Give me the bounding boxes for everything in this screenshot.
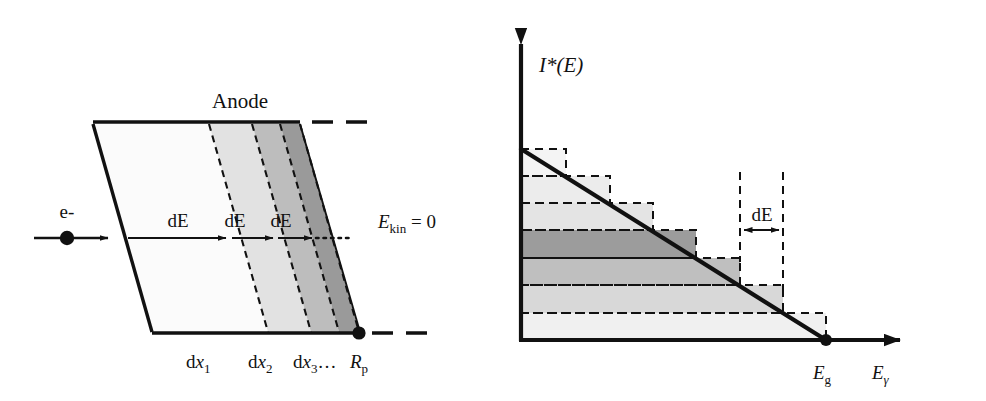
figure-container: Anode e- dE dE dE Ekin = 0 dx1 dx2 d [0,0,986,401]
anode-label: Anode [212,89,268,113]
cutoff-point-dot [820,334,832,346]
de-interval-label: dE [751,204,772,225]
kinetic-energy-label: Ekin = 0 [377,211,436,236]
cutoff-label: Eg [812,362,832,387]
depth-label-2-base: d [248,351,258,372]
incident-electron: e- [34,201,108,245]
de-label-3: dE [270,210,291,231]
de-label-2: dE [224,210,245,231]
cutoff-label-base: E [812,362,825,383]
spectrum-bar-7 [521,313,826,340]
depth-label-1-base: d [186,351,196,372]
spectrum-bar-5 [521,258,740,285]
range-label: Rp [349,351,368,376]
spectrum-bar-3 [521,203,653,230]
range-point-dot [352,326,365,339]
depth-label-3-base: d [293,351,303,372]
range-label-sub: p [362,361,369,376]
depth-label-1-sub: 1 [204,361,211,376]
range-label-base: R [349,351,362,372]
depth-label-1: dx1 [186,351,210,376]
y-axis-label: I*(E) [538,53,583,77]
spectrum-panel: dE I*(E) Eg Eγ [519,44,900,387]
x-axis-label-base: E [871,362,884,383]
electron-dot [60,231,74,245]
diagram-canvas: Anode e- dE dE dE Ekin = 0 dx1 dx2 d [0,0,986,401]
anode-slab-panel: Anode e- dE dE dE Ekin = 0 dx1 dx2 d [34,89,436,376]
depth-label-3: dx3… [293,351,336,376]
kinetic-energy-symbol: E [377,211,390,232]
x-axis-label: Eγ [871,362,890,387]
spectrum-bar-2 [521,176,610,203]
depth-label-2-sub: 2 [266,361,273,376]
cutoff-label-sub: g [825,372,832,387]
x-axis-label-sub: γ [884,372,890,387]
kinetic-energy-equation: = 0 [406,211,436,232]
electron-label: e- [60,201,75,222]
depth-label-ellipsis: … [317,351,336,372]
de-interval-annotation: dE [740,172,783,290]
de-label-1: dE [167,210,188,231]
kinetic-energy-subscript: kin [390,221,407,236]
depth-label-2: dx2 [248,351,272,376]
